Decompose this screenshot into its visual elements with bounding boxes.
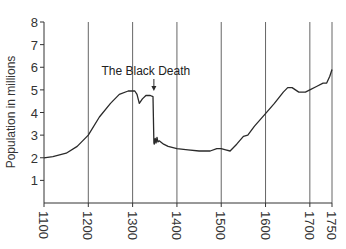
- population-chart: 12345678 1100120013001400150016001700175…: [0, 0, 346, 249]
- y-axis-ticks: 12345678: [31, 15, 44, 188]
- population-line: [44, 70, 332, 158]
- x-tick-label: 1500: [213, 211, 228, 240]
- y-tick-label: 4: [31, 106, 38, 121]
- y-tick-label: 3: [31, 128, 38, 143]
- y-axis-title: Population in millions: [4, 56, 18, 169]
- y-tick-label: 6: [31, 60, 38, 75]
- x-tick-label: 1400: [169, 211, 184, 240]
- x-tick-label: 1100: [36, 211, 51, 239]
- x-tick-label: 1750: [324, 211, 339, 240]
- y-tick-label: 1: [31, 173, 38, 188]
- y-tick-label: 5: [31, 83, 38, 98]
- x-tick-label: 1600: [258, 211, 273, 240]
- vertical-gridlines: [88, 22, 332, 203]
- x-axis-ticks: 11001200130014001500160017001750: [36, 203, 339, 240]
- y-tick-label: 7: [31, 38, 38, 53]
- x-tick-label: 1700: [302, 211, 317, 240]
- arrowhead-icon: [151, 86, 156, 91]
- axes: [44, 22, 332, 203]
- y-tick-label: 2: [31, 151, 38, 166]
- y-tick-label: 8: [31, 15, 38, 30]
- annotation-label: The Black Death: [102, 64, 191, 78]
- x-tick-label: 1200: [80, 211, 95, 240]
- x-tick-label: 1300: [125, 211, 140, 240]
